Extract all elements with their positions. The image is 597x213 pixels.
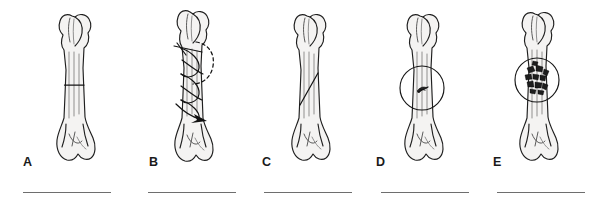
panel-label-c: C [262,156,271,169]
panel-a: A [14,0,133,213]
panel-d: D [362,0,481,213]
panel-label-b: B [149,156,158,169]
bone-spiral-fracture-icon [130,0,249,186]
panel-label-d: D [376,156,385,169]
answer-line-a [23,192,111,193]
answer-line-c [264,192,352,193]
panel-label-a: A [23,156,32,169]
answer-line-b [148,192,236,193]
answer-line-d [381,192,469,193]
panel-label-e: E [493,156,502,169]
fracture-types-figure: A [0,0,597,213]
panel-c: C [249,0,368,213]
panel-e: E [477,0,596,213]
panel-b: B [130,0,249,213]
answer-line-e [497,192,585,193]
